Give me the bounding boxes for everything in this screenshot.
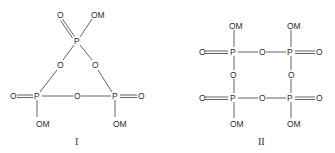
- om-group: OM: [91, 10, 105, 20]
- phosphorus-atom: P: [74, 36, 80, 46]
- phosphorus-atom: P: [230, 47, 236, 57]
- phosphorus-atom: P: [34, 91, 40, 101]
- phosphorus-atom: P: [112, 91, 118, 101]
- structure-label: II: [258, 136, 265, 147]
- oxygen-atom: O: [92, 60, 99, 70]
- oxygen-atom: O: [288, 70, 295, 80]
- oxygen-atom: O: [199, 93, 206, 103]
- om-group: OM: [287, 21, 301, 31]
- oxygen-atom: O: [199, 47, 206, 57]
- om-group: OM: [113, 119, 127, 129]
- phosphate-structures-diagram: O OM P O O O P O P O OM OM I: [0, 0, 335, 153]
- oxygen-atom: O: [259, 47, 266, 57]
- phosphorus-atom: P: [230, 93, 236, 103]
- oxygen-atom: O: [57, 60, 64, 70]
- structure-label: I: [75, 136, 78, 147]
- oxygen-atom: O: [230, 70, 237, 80]
- om-group: OM: [230, 119, 244, 129]
- phosphorus-atom: P: [287, 93, 293, 103]
- om-group: OM: [287, 119, 301, 129]
- structure-ii-bonds: [205, 30, 315, 118]
- structure-i-bonds: [17, 19, 137, 117]
- oxygen-atom: O: [316, 93, 323, 103]
- phosphorus-atom: P: [287, 47, 293, 57]
- oxygen-atom: O: [57, 10, 64, 20]
- om-group: OM: [229, 21, 243, 31]
- structure-ii: OM OM O P O P O O O O P O P O OM OM II: [199, 21, 323, 147]
- oxygen-atom: O: [138, 91, 145, 101]
- oxygen-atom: O: [74, 91, 81, 101]
- om-group: OM: [36, 119, 50, 129]
- oxygen-atom: O: [259, 93, 266, 103]
- oxygen-atom: O: [316, 47, 323, 57]
- oxygen-atom: O: [10, 91, 17, 101]
- structure-i: O OM P O O O P O P O OM OM I: [10, 10, 145, 147]
